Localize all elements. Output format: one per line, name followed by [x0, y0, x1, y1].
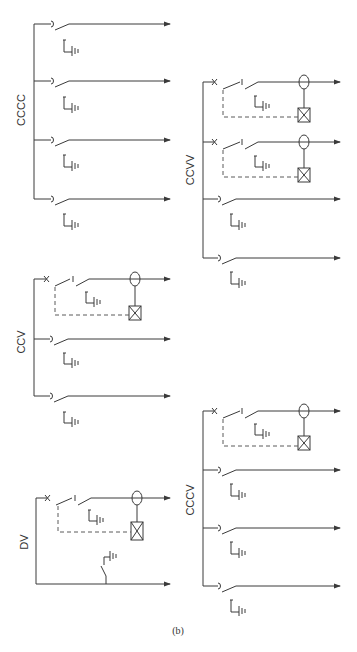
earthing-switch-icon	[63, 353, 78, 368]
earthing-switch-icon	[254, 96, 269, 111]
disconnector-switch-icon	[218, 583, 221, 589]
single-line-diagram: CCCC CCVV	[0, 0, 357, 652]
panel-label-cccc: CCCC	[15, 94, 27, 126]
protection-relay-icon	[298, 436, 310, 450]
trip-link	[223, 90, 298, 117]
outgoing-arrow-icon	[55, 140, 170, 146]
panel-dv: DV	[18, 491, 170, 584]
protection-relay-icon	[131, 522, 143, 540]
outgoing-arrow-icon	[54, 396, 170, 402]
feeder	[34, 393, 170, 427]
disconnector-switch-icon	[218, 255, 221, 261]
panel-ccv: CCV	[15, 272, 170, 427]
earthing-switch-icon	[63, 155, 78, 171]
earthing-switch-icon	[85, 292, 100, 307]
outgoing-arrow-icon	[55, 81, 170, 87]
earthing-switch-icon	[63, 97, 78, 113]
disconnector-switch-icon	[218, 525, 221, 531]
feeder	[36, 551, 170, 584]
outgoing-arrow-icon	[56, 495, 170, 505]
protection-relay-icon	[298, 108, 310, 122]
disconnector-switch-icon	[50, 336, 53, 342]
panel-label-ccvv: CCVV	[184, 154, 196, 185]
earthing-switch-icon	[230, 214, 245, 230]
feeder	[203, 75, 340, 122]
disconnector-switch-icon	[51, 137, 54, 143]
feeder	[203, 467, 340, 500]
feeder	[34, 272, 170, 320]
earthing-switch-icon	[230, 484, 245, 500]
trip-link	[223, 150, 298, 177]
disconnector-switch-icon	[51, 196, 54, 202]
disconnector-switch-icon	[50, 393, 53, 399]
earthing-switch-icon	[230, 272, 245, 288]
feeder	[34, 78, 170, 113]
trip-link	[223, 419, 298, 446]
outgoing-arrow-icon	[222, 199, 340, 205]
feeder	[203, 255, 340, 288]
panel-cccv: CCCV	[184, 404, 340, 616]
feeder	[203, 135, 340, 182]
disconnector-switch-icon	[218, 196, 221, 202]
earthing-switch-icon	[63, 214, 78, 230]
trip-link	[55, 287, 129, 315]
earthing-switch-icon	[230, 600, 245, 616]
feeder	[34, 21, 170, 56]
panel-ccvv: CCVV	[184, 75, 340, 288]
outgoing-arrow-icon	[223, 139, 340, 149]
outgoing-arrow-icon	[55, 276, 170, 286]
disconnector-switch-icon	[51, 21, 54, 27]
outgoing-arrow-icon	[55, 24, 170, 30]
outgoing-arrow-icon	[222, 586, 340, 592]
earthing-switch-icon	[254, 156, 269, 171]
panel-label-dv: DV	[18, 534, 30, 550]
protection-relay-icon	[298, 168, 310, 182]
feeder	[34, 137, 170, 171]
earthing-switch-icon	[101, 551, 116, 584]
trip-link	[58, 506, 131, 532]
panel-label-cccv: CCCV	[184, 484, 196, 516]
feeder	[203, 583, 340, 616]
outgoing-arrow-icon	[223, 79, 340, 89]
earthing-switch-icon	[63, 412, 78, 427]
feeder	[34, 336, 170, 368]
outgoing-arrow-icon	[54, 339, 170, 345]
outgoing-arrow-icon	[222, 258, 340, 264]
outgoing-arrow-icon	[222, 470, 340, 476]
disconnector-switch-icon	[51, 78, 54, 84]
feeder	[203, 404, 340, 450]
earthing-switch-icon	[230, 542, 245, 558]
earthing-switch-icon	[63, 40, 78, 56]
protection-relay-icon	[129, 306, 141, 320]
outgoing-arrow-icon	[55, 199, 170, 205]
disconnector-switch-icon	[218, 467, 221, 473]
feeder	[203, 525, 340, 558]
outgoing-arrow-icon	[223, 408, 340, 418]
panel-cccc: CCCC	[15, 21, 170, 230]
feeder	[203, 196, 340, 230]
panel-label-ccv: CCV	[15, 330, 27, 354]
feeder	[34, 196, 170, 230]
figure-caption: (b)	[172, 625, 184, 637]
feeder	[36, 491, 170, 540]
earthing-switch-icon	[88, 510, 103, 525]
outgoing-arrow-icon	[222, 528, 340, 534]
earthing-switch-icon	[254, 424, 269, 439]
